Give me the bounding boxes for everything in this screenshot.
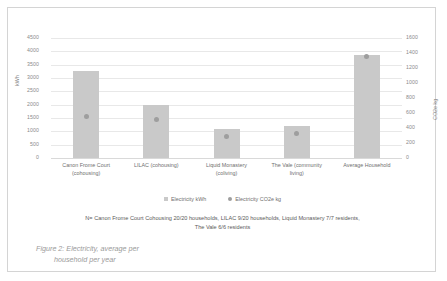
legend-label: Electricity CO2e kg xyxy=(235,196,281,202)
x-axis-category-label: LILAC (cohousing) xyxy=(121,162,191,188)
x-axis-category-label-line: LILAC (cohousing) xyxy=(123,162,189,170)
y-axis-left-tick: 1000 xyxy=(7,128,39,133)
x-axis-line xyxy=(51,158,402,159)
chart-legend: Electricity kWhElectricity CO2e kg xyxy=(8,196,437,202)
x-axis-category-label-line: Liquid Monastery xyxy=(193,162,259,170)
chart-canvas: kWh CO2e kg Canon Frome Court(cohousing)… xyxy=(8,8,437,273)
x-axis-category-label: Liquid Monastery(coliving) xyxy=(191,162,261,188)
x-axis-category-label-line: (coliving) xyxy=(193,170,259,178)
legend-label: Electricity kWh xyxy=(171,196,206,202)
figure-caption: Figure 2: Electricity, average per house… xyxy=(36,244,266,266)
gridline xyxy=(51,78,402,79)
legend-item[interactable]: Electricity kWh xyxy=(164,196,206,202)
y-axis-right-tick: 200 xyxy=(406,140,440,145)
gridline xyxy=(51,105,402,106)
y-axis-right-tick: 1200 xyxy=(406,65,440,70)
marker-electricity-co2e[interactable] xyxy=(294,131,299,136)
y-axis-right-tick: 1000 xyxy=(406,80,440,85)
x-axis-category-labels: Canon Frome Court(cohousing)LILAC (cohou… xyxy=(51,162,402,188)
x-axis-category-label-line: Canon Frome Court xyxy=(53,162,119,170)
gridline xyxy=(51,91,402,92)
gridline xyxy=(51,65,402,66)
legend-circle-icon xyxy=(228,197,232,201)
bar-electricity-kwh[interactable] xyxy=(143,105,169,158)
chart-footnote: N= Canon Frome Court Cohousing 20/20 hou… xyxy=(30,214,415,231)
y-axis-right-tick: 1600 xyxy=(406,35,440,40)
marker-electricity-co2e[interactable] xyxy=(224,134,229,139)
figure-caption-line-2: household per year xyxy=(36,255,266,266)
y-axis-left-tick: 2000 xyxy=(7,102,39,107)
y-axis-left-tick: 3000 xyxy=(7,75,39,80)
footnote-line-1: N= Canon Frome Court Cohousing 20/20 hou… xyxy=(30,214,415,223)
gridline xyxy=(51,118,402,119)
y-axis-right-tick: 600 xyxy=(406,110,440,115)
x-axis-category-label-line: The Vale (community xyxy=(264,162,330,170)
x-axis-category-label-line: living) xyxy=(264,170,330,178)
y-axis-left-tick: 500 xyxy=(7,142,39,147)
y-axis-right-tick: 0 xyxy=(406,155,440,160)
y-axis-right-tick: 800 xyxy=(406,95,440,100)
y-axis-left-tick: 0 xyxy=(7,155,39,160)
y-axis-left-tick: 4000 xyxy=(7,48,39,53)
gridline xyxy=(51,51,402,52)
plot-area xyxy=(51,38,402,158)
legend-item[interactable]: Electricity CO2e kg xyxy=(228,196,281,202)
figure-caption-line-1: Figure 2: Electricity, average per xyxy=(36,244,139,253)
x-axis-category-label-line: Average Household xyxy=(334,162,400,170)
x-axis-category-label: The Vale (communityliving) xyxy=(262,162,332,188)
legend-square-icon xyxy=(164,197,168,201)
x-axis-category-label: Canon Frome Court(cohousing) xyxy=(51,162,121,188)
marker-electricity-co2e[interactable] xyxy=(84,114,89,119)
y-axis-left-tick: 4500 xyxy=(7,35,39,40)
bar-electricity-kwh[interactable] xyxy=(354,55,380,158)
y-axis-right-tick: 400 xyxy=(406,125,440,130)
x-axis-category-label: Average Household xyxy=(332,162,402,188)
gridline xyxy=(51,38,402,39)
y-axis-left-tick: 1500 xyxy=(7,115,39,120)
x-axis-category-label-line: (cohousing) xyxy=(53,170,119,178)
figure-container: kWh CO2e kg Canon Frome Court(cohousing)… xyxy=(7,7,436,272)
marker-electricity-co2e[interactable] xyxy=(154,117,159,122)
y-axis-left-tick: 2500 xyxy=(7,88,39,93)
footnote-line-2: The Vale 6/6 residents xyxy=(30,223,415,232)
y-axis-left-tick: 3500 xyxy=(7,62,39,67)
y-axis-right-tick: 1400 xyxy=(406,50,440,55)
